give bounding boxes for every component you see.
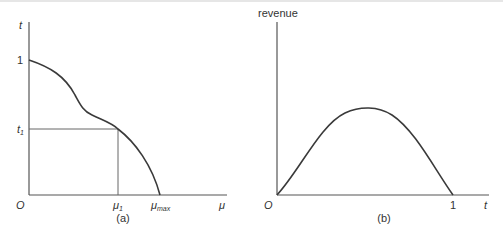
panel-b-y-axis-label: revenue xyxy=(258,7,298,19)
panel-b: revenue O 1 t (b) xyxy=(258,7,489,224)
panel-a: t 1 t1 O μ1 μmax μ (a) xyxy=(16,19,227,224)
panel-a-x-tick-mumax: μmax xyxy=(150,199,171,212)
panel-b-x-axis-label: t xyxy=(484,199,488,211)
panel-b-x-tick-1: 1 xyxy=(450,199,456,211)
panel-a-y-tick-t1: t1 xyxy=(17,123,24,136)
panel-a-y-tick-1: 1 xyxy=(17,54,23,66)
panel-a-x-tick-mu1: μ1 xyxy=(112,199,123,212)
figure: t 1 t1 O μ1 μmax μ (a) revenue O 1 t (b) xyxy=(0,0,503,235)
panel-a-curve xyxy=(29,60,160,195)
panel-a-y-axis-label: t xyxy=(19,19,23,31)
panel-b-caption: (b) xyxy=(377,212,390,224)
panel-a-caption: (a) xyxy=(116,212,129,224)
panel-a-origin-label: O xyxy=(16,199,25,211)
panel-b-origin-label: O xyxy=(264,199,273,211)
panel-a-x-axis-label: μ xyxy=(218,199,225,211)
panel-b-curve xyxy=(277,108,453,195)
